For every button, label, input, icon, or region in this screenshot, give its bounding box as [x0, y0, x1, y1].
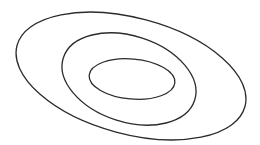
- inner-ellipse: [87, 55, 176, 102]
- nested-ellipses-diagram: [0, 0, 260, 145]
- middle-ellipse: [50, 17, 208, 141]
